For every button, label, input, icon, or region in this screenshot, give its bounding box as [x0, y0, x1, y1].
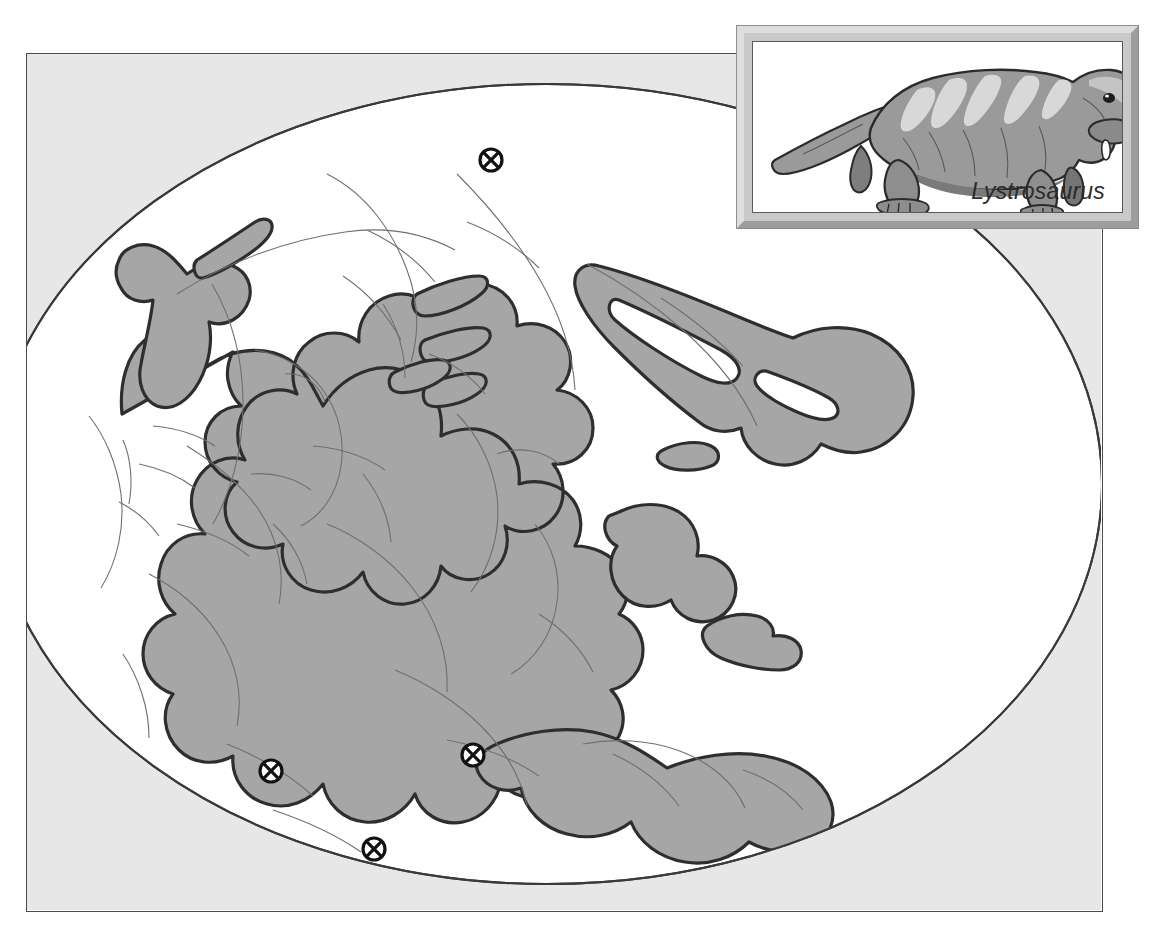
- landmass-worm-island: [657, 443, 718, 471]
- lystrosaurus-inset-panel: Lystrosaurus: [737, 26, 1138, 228]
- crossed-circle-icon[interactable]: [363, 838, 385, 860]
- pangaea-lystrosaurus-figure: Lystrosaurus: [0, 0, 1163, 937]
- crossed-circle-icon[interactable]: [480, 149, 502, 171]
- lystrosaurus-hindleg-far: [850, 146, 871, 192]
- lystrosaurus-hindleg-near-foot: [877, 199, 929, 213]
- lystrosaurus-eye: [1103, 93, 1115, 103]
- inset-inner-panel: Lystrosaurus: [752, 41, 1123, 213]
- inset-caption: Lystrosaurus: [971, 178, 1105, 205]
- crossed-circle-icon[interactable]: [260, 760, 282, 782]
- lystrosaurus-eye-glint: [1105, 94, 1109, 97]
- lystrosaurus-tusk: [1102, 140, 1111, 160]
- crossed-circle-icon[interactable]: [462, 744, 484, 766]
